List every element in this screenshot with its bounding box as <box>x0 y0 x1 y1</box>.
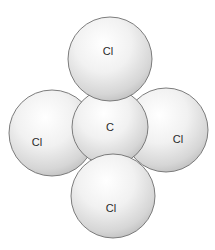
ccl4-space-filling-diagram: ClClCClCl <box>0 0 215 250</box>
atom-label: C <box>106 121 114 133</box>
atom-label: Cl <box>173 133 183 145</box>
atom-sphere <box>68 17 152 101</box>
atom-sphere <box>71 154 155 238</box>
atoms-group: ClClCClCl <box>9 17 208 238</box>
atom-label: Cl <box>32 136 42 148</box>
atom-cl-bottom: Cl <box>71 154 155 238</box>
atom-cl-top: Cl <box>68 17 152 101</box>
atom-label: Cl <box>103 45 113 57</box>
atom-label: Cl <box>106 202 116 214</box>
